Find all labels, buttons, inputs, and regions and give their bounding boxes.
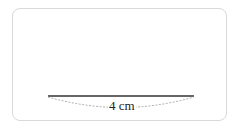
length-label: 4 cm [108,99,136,113]
